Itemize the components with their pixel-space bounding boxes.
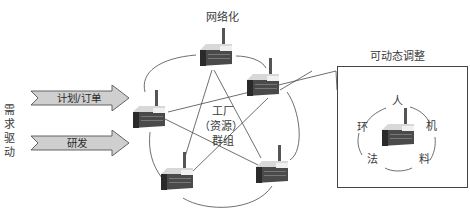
rnd-arrow: 研发 (30, 130, 130, 156)
factor-machine: 机 (426, 117, 437, 133)
rnd-label: 研发 (67, 135, 87, 150)
factory-icon (245, 58, 281, 102)
link-upperright-to-box (280, 71, 312, 90)
factory-icon (380, 108, 416, 152)
networked-label: 网络化 (206, 8, 239, 24)
network-arc (183, 186, 272, 207)
factor-method: 法 (367, 150, 378, 166)
factory-icon (159, 152, 195, 196)
network-arc (144, 55, 196, 92)
factory-group-label: 工厂 （资源） 群组 (205, 104, 241, 149)
detail-box-title: 可动态调整 (370, 47, 425, 63)
plan-order-arrow: 计划/订单 (30, 85, 130, 111)
plan-order-label: 计划/订单 (57, 90, 101, 105)
factor-material: 料 (419, 150, 430, 166)
factory-icon (131, 90, 167, 134)
factory-icon (254, 145, 290, 189)
factory-icon (198, 28, 234, 72)
demand-driven-label: 需 求 驱 动 (3, 104, 15, 160)
factor-people: 人 (392, 92, 403, 108)
factor-environment: 环 (357, 118, 368, 134)
